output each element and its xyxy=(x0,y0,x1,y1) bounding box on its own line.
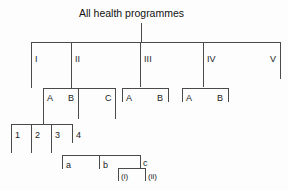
level2-bar-group-II xyxy=(43,88,116,89)
node-label-IV-A: A xyxy=(186,93,192,103)
level1-stub-II xyxy=(71,42,72,88)
level2-bar-group-IV xyxy=(182,88,228,89)
node-label-II: II xyxy=(75,54,80,64)
level2-stub-III-B xyxy=(168,88,169,102)
level5-stub-ii xyxy=(145,168,146,181)
node-label-II-A: A xyxy=(47,93,53,103)
level2-stub-II-A xyxy=(43,88,44,124)
level1-stub-I xyxy=(31,42,32,88)
node-label-III: III xyxy=(144,54,152,64)
node-label-4: 4 xyxy=(76,130,81,140)
level2-stub-II-B xyxy=(78,88,79,119)
node-label-1: 1 xyxy=(15,130,20,140)
level2-stub-IV-B xyxy=(228,88,229,102)
node-label-b: b xyxy=(103,160,108,170)
node-label-V: V xyxy=(270,54,276,64)
level3-stub-2 xyxy=(31,124,32,153)
level3-stub-4 xyxy=(72,124,73,143)
level1-stub-IV xyxy=(203,42,204,87)
level3-bar-group-IIA xyxy=(11,124,73,125)
level4-stub-b xyxy=(99,155,100,169)
level2-stub-III-A xyxy=(122,88,123,102)
node-label-i: (i) xyxy=(121,172,128,181)
node-label-c: c xyxy=(143,158,148,168)
level1-stub-V xyxy=(280,42,281,79)
node-label-II-C: C xyxy=(105,93,112,103)
node-label-a: a xyxy=(66,160,71,170)
level3-stub-1 xyxy=(11,124,12,153)
level2-stub-IV-A xyxy=(182,88,183,102)
trunk-connector-root xyxy=(141,23,142,42)
node-label-III-A: A xyxy=(126,93,132,103)
node-label-III-B: B xyxy=(157,93,163,103)
diagram-title: All health programmes xyxy=(79,7,184,19)
level4-bar-group-IIA3 xyxy=(62,155,141,156)
node-label-II-B: B xyxy=(68,93,74,103)
level2-bar-group-III xyxy=(122,88,168,89)
level5-stub-i xyxy=(118,168,119,181)
level4-stub-c xyxy=(140,155,141,168)
node-label-I: I xyxy=(35,54,38,64)
level3-stub-3 xyxy=(51,124,52,153)
level2-stub-II-C xyxy=(115,88,116,119)
node-label-IV-B: B xyxy=(217,93,223,103)
node-label-IV: IV xyxy=(207,54,216,64)
level4-stub-a xyxy=(62,155,63,169)
level5-bar-group-IIA3c xyxy=(118,168,146,169)
node-label-3: 3 xyxy=(55,130,60,140)
hierarchy-diagram: All health programmes I II III IV V A B … xyxy=(0,0,288,190)
level1-horizontal-bar xyxy=(31,42,281,43)
node-label-ii: (ii) xyxy=(148,172,157,181)
node-label-2: 2 xyxy=(35,130,40,140)
level1-stub-III xyxy=(140,42,141,87)
